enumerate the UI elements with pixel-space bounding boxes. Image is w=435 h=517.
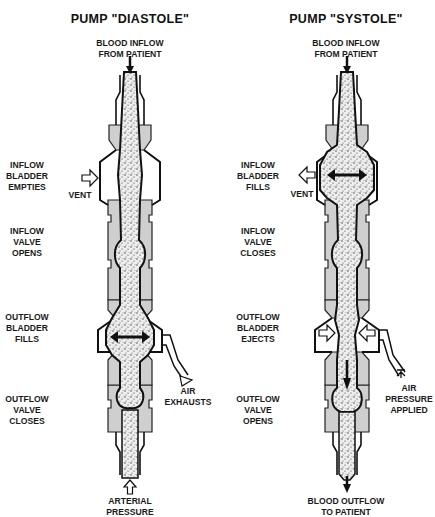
pump-diagram [0, 0, 435, 517]
vent-arrow-icon [82, 170, 98, 186]
air-exhaust-pipe [162, 335, 188, 378]
diastole-pump [82, 56, 192, 494]
squeeze-arrow-right-icon [359, 325, 375, 341]
air-exhaust-arrow-icon [180, 376, 192, 386]
blood-outlet [339, 412, 355, 480]
squeeze-arrow-left-icon [319, 325, 335, 341]
systole-pump [299, 56, 405, 493]
air-pressure-pipe [379, 330, 405, 376]
arrow-up-outline-icon [124, 480, 136, 494]
vent-arrow-icon [299, 167, 315, 183]
blood-outlet [122, 410, 138, 478]
